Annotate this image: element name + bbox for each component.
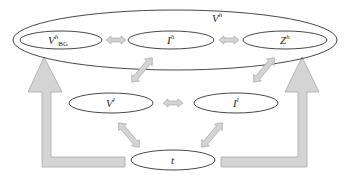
arrow-vbg-ih — [106, 36, 126, 44]
arrow-zh-il — [250, 55, 278, 86]
node-vl: Vl — [69, 93, 153, 113]
arrow-il-t — [198, 120, 226, 151]
arrow-vl-il — [163, 99, 183, 107]
arrow-ih-zh — [219, 36, 239, 44]
outer-group-label: Vh — [212, 11, 223, 24]
diagram-canvas: Vh VhBG Ih Zh Vl Il t — [0, 0, 348, 178]
arrow-vl-t — [115, 120, 143, 151]
node-ih: Ih — [128, 31, 214, 49]
node-il: Il — [194, 93, 278, 113]
node-zh: Zh — [243, 31, 327, 49]
node-vbg: VhBG — [20, 31, 102, 49]
node-t: t — [131, 150, 215, 170]
